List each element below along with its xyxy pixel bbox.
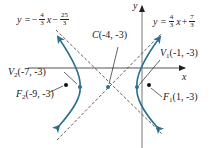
slope-fraction: 4 3 — [169, 14, 175, 29]
y-axis-label: y — [133, 1, 137, 11]
slope-denominator: 3 — [39, 20, 45, 27]
eq-lhs: y = — [153, 17, 167, 27]
center-label: C(-4, -3) — [92, 30, 127, 40]
intercept-fraction: 7 3 — [189, 14, 195, 29]
focus-f1-point — [147, 83, 151, 87]
right-branch — [137, 37, 160, 127]
slope-fraction: 4 3 — [39, 12, 45, 27]
eq-op: − — [52, 15, 58, 25]
center-coords: (-4, -3) — [99, 29, 127, 40]
v2-coords: (-7, -3) — [18, 66, 46, 77]
center-leader — [109, 47, 118, 84]
vertex-v1-label: V1(-1, -3) — [160, 48, 198, 60]
eq-var: x — [176, 17, 180, 27]
f1-coords: (1, -3) — [173, 91, 198, 102]
center-name: C — [92, 29, 99, 40]
focus-f2-point — [64, 83, 68, 87]
intercept-denominator: 3 — [189, 22, 195, 29]
v2-leader — [64, 72, 77, 84]
vertex-v2-label: V2(-7, -3) — [8, 67, 46, 79]
f2-coords: (-9, -3) — [26, 88, 54, 99]
x-axis-label: x — [182, 72, 186, 82]
focus-f2-label: F2(-9, -3) — [16, 89, 54, 101]
eq-op: + — [182, 17, 188, 27]
eq-var: x — [47, 15, 51, 25]
vertex-v2-point — [78, 85, 82, 89]
v1-coords: (-1, -3) — [170, 47, 198, 58]
slope-denominator: 3 — [169, 22, 175, 29]
center-point — [106, 85, 110, 89]
intercept-denominator: 3 — [62, 20, 68, 27]
vertex-v1-point — [135, 85, 139, 89]
asymptote-label-negative: y = − 4 3 x − 25 3 — [17, 12, 70, 27]
asymptote-label-positive: y = 4 3 x + 7 3 — [153, 14, 196, 29]
eq-sign: − — [32, 15, 38, 25]
eq-lhs: y = — [17, 15, 31, 25]
left-branch — [58, 37, 80, 126]
focus-f1-label: F1(1, -3) — [163, 92, 198, 104]
intercept-fraction: 25 3 — [60, 12, 69, 27]
f1-leader — [151, 88, 162, 97]
